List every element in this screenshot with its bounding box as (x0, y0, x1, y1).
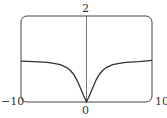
x-origin-label: 0 (82, 105, 89, 116)
graph-window (0, 0, 167, 118)
y-max-label: 2 (82, 3, 89, 14)
x-min-label: −10 (1, 96, 24, 107)
x-max-label: 10 (155, 96, 167, 107)
